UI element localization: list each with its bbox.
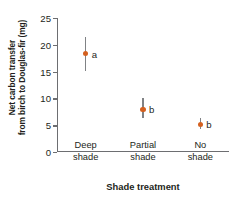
y-axis-title-line-1: Net carbon transfer [7,40,18,115]
y-axis-tick-label: 10 [40,93,51,104]
x-axis-title: Shade treatment [57,181,229,192]
y-axis-tick-label: 5 [46,120,51,131]
y-axis-tick-label: 25 [40,13,51,24]
data-point-marker [198,122,203,127]
significance-letter: b [206,119,211,130]
y-axis-tick-mark [53,18,57,19]
y-axis-tick-mark [53,45,57,46]
x-axis-category-label: Partialshade [130,139,156,163]
significance-letter: a [92,48,97,59]
y-axis-tick-mark [53,98,57,99]
data-point-marker [140,107,145,112]
y-axis-tick-label: 20 [40,39,51,50]
x-axis-category-line: shade [188,151,213,163]
y-axis-tick-mark [53,125,57,126]
y-axis-tick-label: 15 [40,66,51,77]
y-axis-tick-mark [53,72,57,73]
y-axis-line [57,18,58,152]
x-axis-category-line: shade [73,151,98,163]
chart-figure: Net carbon transfer from birch to Dougla… [0,0,235,204]
x-axis-category-label: Noshade [188,139,213,163]
x-axis-category-line: Partial [130,139,156,151]
y-axis-tick-mark [53,152,57,153]
plot-area: 0510152025 abb [57,18,229,152]
x-axis-category-label: Deepshade [73,139,98,163]
y-axis-title-line-2: from birch to Douglas-fir (mg) [17,20,28,136]
data-point-marker [83,51,88,56]
significance-letter: b [149,104,154,115]
y-axis-title: Net carbon transfer from birch to Dougla… [0,0,34,155]
x-axis-category-line: shade [130,151,156,163]
x-axis-category-line: Deep [73,139,98,151]
x-axis-category-line: No [188,139,213,151]
y-axis-tick-label: 0 [46,147,51,158]
